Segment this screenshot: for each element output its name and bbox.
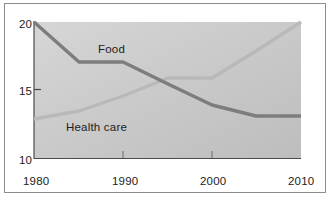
y-tick-label-10: 10 — [19, 154, 32, 166]
x-tick-label-2000: 2000 — [200, 175, 226, 187]
figure-frame: 20 15 10 1980 1990 2000 2010 Food Health… — [4, 3, 326, 193]
series-label-health-care: Health care — [66, 121, 127, 133]
y-tick-label-15: 15 — [19, 85, 32, 97]
series-label-food: Food — [98, 43, 125, 55]
plot-area — [34, 22, 301, 158]
chart-screenshot: 20 15 10 1980 1990 2000 2010 Food Health… — [0, 0, 331, 197]
x-tick-label-1990: 1990 — [112, 175, 138, 187]
x-tick-label-2010: 2010 — [288, 175, 314, 187]
line-chart — [5, 4, 327, 194]
y-tick-label-20: 20 — [19, 18, 32, 30]
x-tick-label-1980: 1980 — [23, 175, 49, 187]
